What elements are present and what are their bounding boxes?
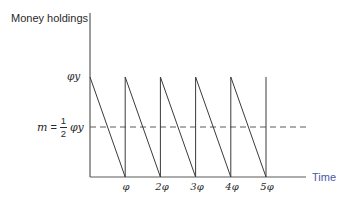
fraction-half: 1 2 <box>60 116 67 138</box>
m-symbol: m <box>37 122 47 133</box>
average-annotation: m = 1 2 φy <box>37 116 84 138</box>
y-axis-label: Money holdings <box>11 13 88 24</box>
sawtooth-line <box>90 77 266 177</box>
x-tick-3: 3φ <box>190 182 203 192</box>
x-axis-label: Time <box>312 172 336 183</box>
fraction-numerator: 1 <box>61 116 66 126</box>
fraction-denominator: 2 <box>61 129 66 139</box>
x-tick-1: φ <box>122 182 129 192</box>
x-tick-5: 5φ <box>260 182 273 192</box>
x-tick-2: 2φ <box>155 182 168 192</box>
sawtooth-series <box>90 77 266 177</box>
y-tick-phi-y: φy <box>67 71 80 82</box>
phi-y-symbol: φy <box>70 122 84 133</box>
chart-canvas <box>0 0 347 201</box>
equals-sign: = <box>50 122 56 133</box>
x-tick-4: 4φ <box>225 182 238 192</box>
